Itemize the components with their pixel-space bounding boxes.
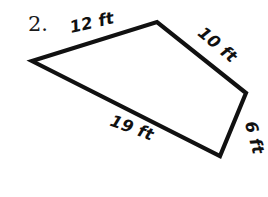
geometry-figure-canvas: 2. 12 ft 10 ft 6 ft 19 ft	[0, 0, 268, 197]
quadrilateral-diagram: 2. 12 ft 10 ft 6 ft 19 ft	[0, 0, 268, 197]
problem-number-label: 2.	[28, 12, 48, 36]
